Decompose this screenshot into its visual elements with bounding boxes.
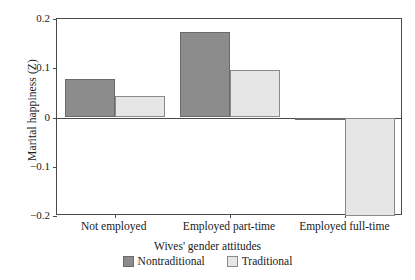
chart-legend: Wives' gender attitudes Nontraditional T… <box>0 240 415 267</box>
bar <box>180 32 230 117</box>
y-axis-title: Marital happiness (Z) <box>26 15 38 205</box>
y-tick-mark <box>53 216 57 217</box>
legend-swatch-icon <box>227 256 238 267</box>
y-tick-label: 0 <box>10 111 50 122</box>
x-category-label: Not employed <box>81 220 146 232</box>
chart-figure: Marital happiness (Z) 0.2 0.1 0 −0.1 −0.… <box>0 0 415 280</box>
bar <box>345 118 395 217</box>
y-tick-mark <box>53 19 57 20</box>
bar <box>230 70 280 118</box>
y-tick-label: 0.1 <box>10 62 50 73</box>
y-tick-mark <box>53 68 57 69</box>
legend-item-label: Traditional <box>242 255 293 267</box>
x-category-label: Employed part-time <box>183 220 275 232</box>
y-tick-mark <box>53 167 57 168</box>
y-tick-label: −0.2 <box>10 210 50 221</box>
legend-swatch-icon <box>123 256 134 267</box>
x-tick-mark <box>115 214 116 218</box>
legend-title: Wives' gender attitudes <box>0 240 415 252</box>
y-tick-mark <box>53 118 57 119</box>
x-tick-mark <box>230 214 231 218</box>
y-tick-label: 0.2 <box>10 13 50 24</box>
legend-items: Nontraditional Traditional <box>0 255 415 267</box>
plot-area <box>56 18 402 215</box>
bar <box>295 118 345 121</box>
legend-item-nontraditional: Nontraditional <box>123 255 205 267</box>
bar <box>65 79 115 117</box>
bar <box>115 96 165 117</box>
legend-item-traditional: Traditional <box>227 255 293 267</box>
y-tick-label: −0.1 <box>10 160 50 171</box>
x-category-label: Employed full-time <box>299 220 389 232</box>
legend-item-label: Nontraditional <box>138 255 205 267</box>
